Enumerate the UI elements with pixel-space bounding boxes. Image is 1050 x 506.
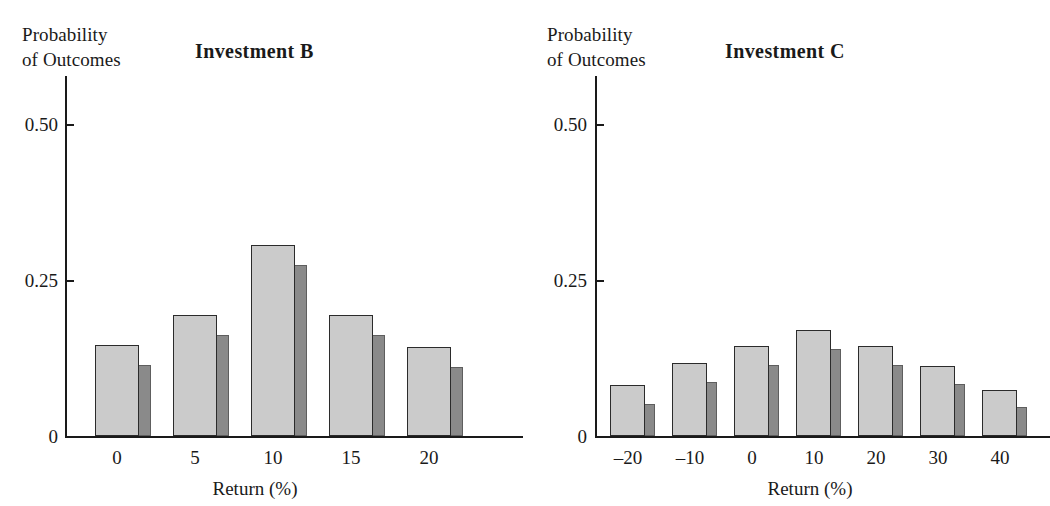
y-tick-label-050-c: 0.50 xyxy=(529,114,587,136)
x-tick-label-b: 10 xyxy=(243,447,303,469)
x-tick-label-c: –20 xyxy=(598,447,658,469)
bar-face xyxy=(734,346,769,436)
x-axis-line-c xyxy=(595,436,1050,438)
x-tick-label-b: 5 xyxy=(165,447,225,469)
bar-face xyxy=(858,346,893,436)
bar-group xyxy=(95,236,165,436)
x-tick-label-c: 0 xyxy=(722,447,782,469)
y-tick-mark-050-c xyxy=(595,124,604,126)
bar-group xyxy=(920,286,976,436)
bar-face xyxy=(796,330,831,436)
bar-side xyxy=(293,265,307,436)
bar-face xyxy=(95,345,139,436)
y-tick-mark-025-c xyxy=(595,280,604,282)
bar-group xyxy=(734,286,790,436)
bar-group xyxy=(610,286,666,436)
y-tick-label-050-b: 0.50 xyxy=(0,114,58,136)
bar-group xyxy=(982,286,1038,436)
y-axis-line-c xyxy=(595,76,597,438)
y-axis-caption-line1: Probability xyxy=(22,24,108,45)
bar-face xyxy=(173,315,217,436)
x-axis-title-c: Return (%) xyxy=(720,478,900,500)
bar-face xyxy=(672,363,707,436)
y-tick-mark-050-b xyxy=(65,124,74,126)
bar-group xyxy=(672,286,728,436)
x-tick-label-c: 30 xyxy=(908,447,968,469)
bar-face xyxy=(329,315,373,436)
y-tick-label-025-b: 0.25 xyxy=(0,270,58,292)
chart-panel-investment-b: Probability of Outcomes Investment B 0.5… xyxy=(0,0,525,506)
x-tick-label-b: 15 xyxy=(321,447,381,469)
bar-side xyxy=(449,367,463,436)
bar-group xyxy=(329,236,399,436)
bar-side xyxy=(137,365,151,436)
bar-side xyxy=(371,335,385,436)
x-axis-line-b xyxy=(65,436,523,438)
y-axis-caption-line2: of Outcomes xyxy=(547,49,646,70)
x-tick-label-c: 20 xyxy=(846,447,906,469)
x-tick-label-b: 20 xyxy=(399,447,459,469)
y-tick-label-0-c: 0 xyxy=(529,426,587,448)
bar-group xyxy=(251,236,321,436)
bar-group xyxy=(173,236,243,436)
y-axis-caption-b: Probability of Outcomes xyxy=(22,22,121,72)
bar-face xyxy=(982,390,1017,436)
x-tick-label-c: 10 xyxy=(784,447,844,469)
bar-group xyxy=(796,286,852,436)
chart-title-investment-c: Investment C xyxy=(725,40,845,63)
chart-title-investment-b: Investment B xyxy=(195,40,314,63)
y-axis-caption-line1: Probability xyxy=(547,24,633,45)
chart-panel-investment-c: Probability of Outcomes Investment C 0.5… xyxy=(525,0,1050,506)
bar-group xyxy=(407,236,477,436)
y-tick-label-025-c: 0.25 xyxy=(529,270,587,292)
y-axis-caption-c: Probability of Outcomes xyxy=(547,22,646,72)
x-tick-label-c: –10 xyxy=(660,447,720,469)
x-tick-label-b: 0 xyxy=(87,447,147,469)
y-axis-line-b xyxy=(65,76,67,438)
x-axis-title-b: Return (%) xyxy=(165,478,345,500)
bar-face xyxy=(251,245,295,436)
y-axis-caption-line2: of Outcomes xyxy=(22,49,121,70)
bar-face xyxy=(610,385,645,436)
y-tick-label-0-b: 0 xyxy=(0,426,58,448)
bar-face xyxy=(920,366,955,436)
bar-side xyxy=(215,335,229,436)
x-tick-label-c: 40 xyxy=(970,447,1030,469)
bar-face xyxy=(407,347,451,436)
y-tick-mark-025-b xyxy=(65,280,74,282)
bar-group xyxy=(858,286,914,436)
